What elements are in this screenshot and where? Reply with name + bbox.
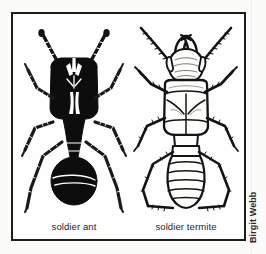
figure-inner-area: soldier ant soldier termite <box>13 14 244 239</box>
caption-soldier-ant: soldier ant <box>17 221 131 232</box>
scan-page: soldier ant soldier termite Birgit Webb <box>0 0 266 254</box>
ant-drawing <box>22 29 126 212</box>
illustration-soldier-termite <box>129 22 243 214</box>
caption-soldier-termite: soldier termite <box>129 221 243 232</box>
figure-frame: soldier ant soldier termite <box>11 12 246 241</box>
illustration-soldier-ant <box>17 22 131 214</box>
photo-credit: Birgit Webb <box>251 123 265 243</box>
photo-credit-text: Birgit Webb <box>248 192 258 243</box>
termite-drawing <box>134 28 238 211</box>
